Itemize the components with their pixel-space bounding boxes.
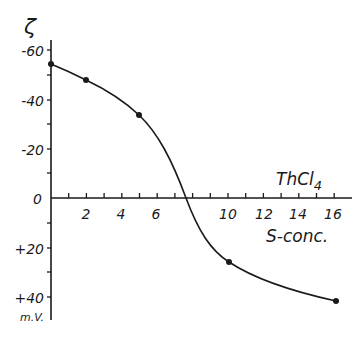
y-tick-label: -60 [21,43,44,59]
x-axis-label-sconc: S-conc. [266,226,328,246]
y-unit-label: m.V. [20,311,44,324]
x-tick-label: 4 [117,206,126,222]
zeta-potential-chart: ζ -60 -40 -20 0 +20 +40 m.V. 2 4 6 10 12… [0,0,358,337]
y-tick-label: -20 [21,142,44,158]
x-tick-label: 14 [289,206,307,222]
data-point [83,77,89,83]
y-tick-label: -40 [21,93,44,109]
x-tick-label: 6 [152,206,161,222]
x-tick-label: 16 [324,206,342,222]
data-point [226,259,232,265]
y-tick-label: +20 [14,241,44,257]
data-point [333,298,339,304]
y-axis-label: ζ [23,14,37,39]
x-tick-label: 2 [82,206,91,222]
data-point [48,61,54,67]
series-label-thcl4: ThCl4 [276,169,322,193]
data-point [136,112,142,118]
x-tick-label: 12 [255,206,273,222]
y-tick-label: 0 [33,191,42,207]
x-tick-label: 10 [219,206,237,222]
y-tick-label: +40 [14,290,44,306]
